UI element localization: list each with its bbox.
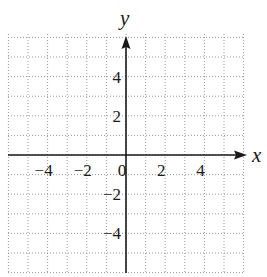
y-tick-label: −4	[103, 224, 122, 243]
x-tick-label: −2	[74, 161, 92, 180]
y-tick-label: −2	[103, 185, 121, 204]
axes	[8, 36, 247, 273]
x-tick-label: −4	[35, 161, 54, 180]
x-axis-label: x	[251, 143, 262, 167]
x-tick-label: 4	[196, 161, 205, 180]
x-tick-label: 2	[157, 161, 166, 180]
y-tick-label: 4	[113, 68, 122, 87]
y-tick-label: 2	[113, 107, 122, 126]
x-tick-label: 0	[118, 161, 127, 180]
coordinate-plane: −4−202442−2−4 x y	[0, 0, 267, 277]
y-axis-label: y	[118, 6, 130, 30]
